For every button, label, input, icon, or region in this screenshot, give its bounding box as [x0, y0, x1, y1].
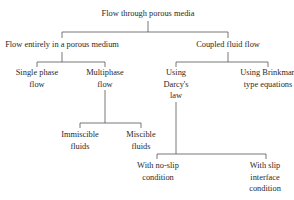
node-immiscible-fluids: Immiscible fluids [61, 129, 99, 152]
node-label-line: law [163, 90, 188, 102]
node-label-line: fluids [126, 141, 155, 153]
node-with-no-slip-condition: With no-slip condition [137, 160, 179, 183]
node-label-line: type equations [240, 79, 294, 91]
node-miscible-fluids: Miscible fluids [126, 129, 155, 152]
node-label-line: interface [249, 172, 281, 184]
node-flow-through-porous-media: Flow through porous media [102, 8, 195, 20]
node-flow-entirely-in-porous-medium: Flow entirely in a porous medium [5, 39, 119, 51]
node-label-line: Darcy's [163, 79, 188, 91]
node-multiphase-flow: Multiphase flow [86, 67, 124, 90]
node-label-line: Using Brinkman [240, 67, 294, 79]
node-label-line: flow [16, 79, 59, 91]
node-label: Flow entirely in a porous medium [5, 39, 119, 51]
node-label: Flow through porous media [102, 8, 195, 20]
node-coupled-fluid-flow: Coupled fluid flow [196, 39, 260, 51]
node-single-phase-flow: Single phase flow [16, 67, 59, 90]
node-label-line: flow [86, 79, 124, 91]
node-label-line: Immiscible [61, 129, 99, 141]
node-label: Coupled fluid flow [196, 39, 260, 51]
node-label-line: Using [163, 67, 188, 79]
node-with-slip-interface-condition: With slip interface condition [249, 160, 281, 195]
node-label-line: Single phase [16, 67, 59, 79]
node-label-line: fluids [61, 141, 99, 153]
node-label-line: With no-slip [137, 160, 179, 172]
node-label-line: condition [137, 172, 179, 184]
node-label-line: Multiphase [86, 67, 124, 79]
node-using-brinkman-type-equations: Using Brinkman type equations [240, 67, 294, 90]
node-label-line: condition [249, 183, 281, 195]
node-using-darcys-law: Using Darcy's law [163, 67, 188, 102]
node-label-line: Miscible [126, 129, 155, 141]
node-label-line: With slip [249, 160, 281, 172]
